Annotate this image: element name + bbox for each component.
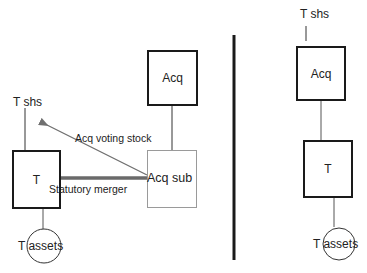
left-target-box: T [12, 150, 61, 209]
acquirer-sub-label: Acq sub [147, 172, 192, 185]
left-target-assets-label: T assets [18, 240, 63, 252]
left-tshs-label: T shs [13, 96, 42, 108]
left-acquirer-label: Acq [162, 72, 183, 84]
right-target-box: T [303, 140, 353, 198]
right-tshs-label: T shs [300, 8, 329, 20]
right-acquirer-box: Acq [296, 46, 346, 101]
diagram-canvas: T shs T T assets Acq Acq sub Acq voting … [0, 0, 367, 273]
acq-voting-stock-label: Acq voting stock [75, 133, 151, 144]
left-target-label: T [33, 174, 40, 186]
right-target-assets-label: T assets [313, 238, 358, 250]
diagram-lines [0, 0, 367, 273]
right-acquirer-label: Acq [311, 68, 332, 80]
statutory-merger-label: Statutory merger [49, 184, 127, 195]
left-acquirer-box: Acq [147, 50, 198, 106]
right-target-label: T [324, 163, 331, 175]
